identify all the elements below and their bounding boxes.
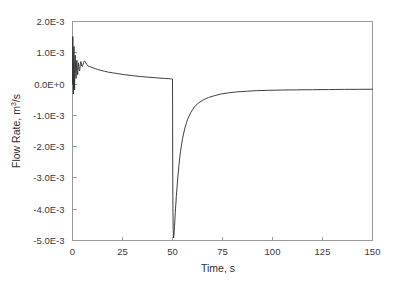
- x-tick-label: 50: [167, 246, 178, 257]
- y-tick-label: 0.0E+0: [34, 79, 64, 90]
- x-tick-label: 150: [365, 246, 381, 257]
- x-tick-label: 75: [217, 246, 228, 257]
- plot-frame: [73, 22, 373, 241]
- y-axis-title-group: Flow Rate, m3/s: [10, 94, 22, 168]
- chart-figure: 0255075100125150 2.0E-31.0E-30.0E+0-1.0E…: [0, 0, 396, 284]
- axis-frame: [73, 22, 373, 241]
- y-axis-title: Flow Rate, m3/s: [10, 94, 22, 168]
- data-series-group: [73, 37, 373, 238]
- flow-rate-curve: [73, 37, 373, 238]
- y-axis-tick-labels: 2.0E-31.0E-30.0E+0-1.0E-3-2.0E-3-3.0E-3-…: [33, 16, 64, 246]
- y-tick-label: -2.0E-3: [33, 141, 64, 152]
- x-tick-label: 25: [117, 246, 128, 257]
- y-tick-label: 2.0E-3: [37, 16, 65, 27]
- y-axis-title-base: Flow Rate, m: [10, 106, 22, 168]
- x-axis-tick-labels: 0255075100125150: [70, 246, 381, 257]
- y-tick-label: -5.0E-3: [33, 235, 64, 246]
- y-tick-label: -1.0E-3: [33, 110, 64, 121]
- x-tick-label: 100: [265, 246, 281, 257]
- x-axis-title: Time, s: [201, 262, 235, 274]
- y-tick-label: -4.0E-3: [33, 204, 64, 215]
- y-tick-label: 1.0E-3: [37, 47, 65, 58]
- x-tick-label: 125: [315, 246, 331, 257]
- flow-rate-vs-time-plot: 0255075100125150 2.0E-31.0E-30.0E+0-1.0E…: [0, 0, 396, 284]
- y-tick-label: -3.0E-3: [33, 172, 64, 183]
- x-tick-label: 0: [70, 246, 75, 257]
- x-axis-ticks: [73, 237, 373, 241]
- y-axis-title-tail: /s: [10, 94, 22, 102]
